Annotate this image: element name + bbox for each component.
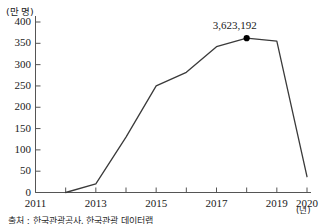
chart-source-caption: 출처 : 한국관광공사, 한국관광 데이터랩 <box>8 214 319 224</box>
chart-plot-area <box>0 0 319 224</box>
y-axis-tick-label: 350 <box>3 37 31 48</box>
line-chart: (만 명) (년) 050100150200250300350400 20112… <box>0 0 319 224</box>
chart-axes <box>36 16 312 193</box>
y-axis-tick-label: 0 <box>3 187 31 198</box>
chart-series <box>66 38 307 192</box>
y-axis-tick-label: 150 <box>3 123 31 134</box>
y-axis-tick-label: 100 <box>3 144 31 155</box>
y-axis-tick-label: 400 <box>3 16 31 27</box>
data-point-label: 3,623,192 <box>213 20 257 31</box>
y-axis-tick-label: 50 <box>3 165 31 176</box>
y-axis-tick-label: 200 <box>3 101 31 112</box>
y-axis-tick-label: 250 <box>3 80 31 91</box>
x-axis-tick-label: 2013 <box>79 198 113 209</box>
x-axis-tick-label: 2011 <box>19 198 53 209</box>
x-axis-tick-label: 2019 <box>260 198 294 209</box>
x-axis-tick-label: 2020 <box>290 198 319 209</box>
x-axis-tick-label: 2015 <box>139 198 173 209</box>
chart-data-markers <box>244 35 250 41</box>
y-axis-tick-label: 300 <box>3 59 31 70</box>
x-axis-tick-label: 2017 <box>200 198 234 209</box>
